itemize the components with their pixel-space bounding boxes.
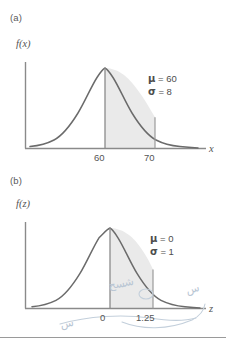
panel-a-y-axis-label: f(x) — [16, 38, 31, 49]
sigma-symbol: σ — [148, 86, 156, 97]
panel-b-mu-row: μ = 0 — [150, 233, 174, 246]
panel-b-tick-label-mean: 0 — [100, 312, 105, 323]
panel-a-plot — [0, 0, 226, 176]
panel-a-sigma-value: = 8 — [156, 86, 172, 97]
panel-b-mu-value: = 0 — [157, 233, 173, 244]
panel-a: (a) f(x) x μ = 60 σ = 8 60 70 — [0, 0, 226, 172]
panel-b-sigma-row: σ = 1 — [150, 246, 174, 259]
panel-b: (b) f(z) z μ = 0 σ = 1 0 1.25 — [0, 172, 226, 348]
page-bottom-rule — [0, 337, 226, 338]
panel-a-parameters: μ = 60 σ = 8 — [148, 73, 177, 98]
panel-a-mu-value: = 60 — [155, 73, 176, 84]
panel-a-sigma-row: σ = 8 — [148, 86, 177, 99]
panel-a-mu-row: μ = 60 — [148, 73, 177, 86]
panel-b-y-axis-label: f(z) — [16, 198, 30, 209]
panel-b-plot — [0, 172, 226, 348]
panel-b-x-axis-label: z — [209, 303, 213, 314]
panel-b-sigma-value: = 1 — [158, 246, 174, 257]
panel-a-tick-label-value: 70 — [144, 152, 155, 163]
panel-a-x-axis-label: x — [209, 143, 214, 154]
normal-distribution-figure: (a) f(x) x μ = 60 σ = 8 60 70 (b) — [0, 0, 226, 348]
panel-b-tick-label-value: 1.25 — [136, 312, 155, 323]
panel-a-tick-label-mean: 60 — [94, 152, 105, 163]
panel-b-parameters: μ = 0 σ = 1 — [150, 233, 174, 258]
sigma-symbol: σ — [150, 246, 158, 257]
panel-b-shaded-area — [110, 228, 153, 308]
